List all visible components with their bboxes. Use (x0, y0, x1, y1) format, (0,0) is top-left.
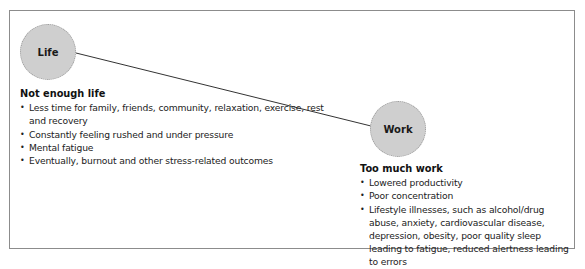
list-item: Mental fatigue (20, 141, 330, 154)
work-node: Work (370, 101, 426, 157)
not-enough-life-section: Not enough life Less time for family, fr… (20, 87, 330, 167)
list-item: Lifestyle illnesses, such as alcohol/dru… (360, 203, 575, 269)
list-item: Less time for family, friends, community… (20, 101, 330, 127)
list-item: Constantly feeling rushed and under pres… (20, 128, 330, 141)
list-item: Lowered productivity (360, 176, 575, 189)
work-node-label: Work (383, 124, 412, 135)
not-enough-life-list: Less time for family, friends, community… (20, 101, 330, 167)
too-much-work-heading: Too much work (360, 162, 575, 175)
not-enough-life-heading: Not enough life (20, 87, 330, 100)
list-item: Eventually, burnout and other stress-rel… (20, 154, 330, 167)
too-much-work-section: Too much work Lowered productivity Poor … (360, 162, 575, 269)
too-much-work-list: Lowered productivity Poor concentration … (360, 176, 575, 268)
life-node-label: Life (38, 47, 59, 58)
life-node: Life (20, 24, 76, 80)
list-item: Poor concentration (360, 189, 575, 202)
